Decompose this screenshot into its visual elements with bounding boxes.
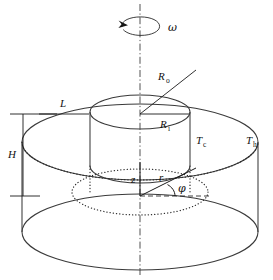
height-label: H [7, 148, 17, 160]
hot-temperature-label: T [246, 134, 253, 146]
inner-radius-label: R [159, 118, 167, 130]
rotating-annulus-diagram: ω R o R i [0, 0, 273, 280]
canvas-background [0, 0, 273, 280]
outer-radius-label: R [157, 70, 165, 82]
gap-width-label: L [59, 97, 66, 109]
diagram-canvas-main: ω R o R i [0, 0, 273, 280]
z-axis-label: z [130, 173, 136, 185]
phi-angle-label: φ [178, 182, 186, 195]
omega-label: ω [168, 21, 177, 34]
hot-temperature-sublabel: h [253, 140, 257, 149]
outer-radius-sublabel: o [166, 76, 170, 85]
omega-label-group: ω [168, 21, 177, 34]
r-axis-label: r [159, 171, 164, 183]
cold-temperature-label: T [196, 134, 203, 146]
inner-radius-sublabel: i [168, 124, 170, 133]
